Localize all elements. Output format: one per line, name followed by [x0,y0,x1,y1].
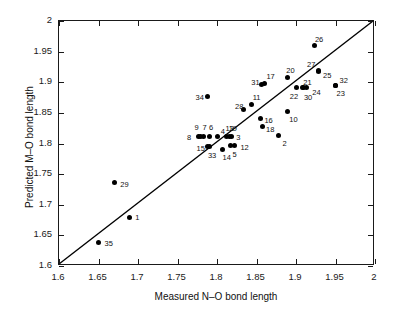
data-point [127,215,132,220]
data-point [215,134,220,139]
data-point-label: 28 [235,103,243,111]
y-tick-mark-right [368,52,373,53]
data-point-label: 16 [264,117,272,125]
data-point-label: 10 [289,116,297,124]
y-tick-mark [59,82,64,83]
x-tick-mark [217,259,218,264]
y-tick-mark [59,144,64,145]
y-tick-label: 1.6 [12,260,52,270]
x-tick-mark [138,259,139,264]
data-point-label: 24 [312,89,320,97]
y-tick-mark [59,21,64,22]
y-tick-mark-right [368,174,373,175]
y-tick-mark-right [368,82,373,83]
plot-canvas [59,21,373,264]
data-point-label: 6 [209,124,213,132]
x-tick-mark [178,259,179,264]
data-point-label: 33 [208,152,216,160]
x-tick-mark [375,259,376,264]
data-point-label: 8 [187,134,191,142]
y-tick-mark [59,235,64,236]
data-point-label: 23 [337,90,345,98]
data-point-label: 34 [196,94,204,102]
x-tick-mark-top [178,21,179,26]
x-tick-label: 1.75 [167,272,186,282]
data-point-label: 25 [323,72,331,80]
x-tick-label: 2 [371,272,376,282]
scatter-plot-figure: 1234567891011121314151617181920212223242… [0,0,394,317]
data-point-label: 29 [120,181,128,189]
x-tick-label: 1.7 [130,272,143,282]
x-axis-title: Measured N–O bond length [58,292,374,302]
data-point-label: 7 [203,124,207,132]
x-tick-label: 1.8 [209,272,222,282]
x-tick-label: 1.95 [325,272,344,282]
data-point-label: 26 [315,36,323,44]
data-point [227,134,232,139]
y-tick-mark-right [368,144,373,145]
plot-area: 1234567891011121314151617181920212223242… [58,20,374,265]
x-tick-mark [336,259,337,264]
y-tick-mark-right [368,235,373,236]
data-point-label: 14 [223,154,231,162]
x-tick-mark [99,259,100,264]
y-tick-mark [59,52,64,53]
y-axis-title: Predicted M–O bond length [25,47,35,247]
y-tick-mark-right [368,205,373,206]
x-tick-mark-top [99,21,100,26]
data-point-label: 17 [266,73,274,81]
y-tick-mark [59,113,64,114]
data-point-label: 3 [236,134,240,142]
x-tick-label: 1.6 [51,272,64,282]
x-tick-mark-top [138,21,139,26]
data-point-label: 27 [307,61,315,69]
y-tick-mark [59,174,64,175]
x-tick-mark-top [375,21,376,26]
x-tick-mark-top [336,21,337,26]
x-tick-mark-top [257,21,258,26]
x-tick-mark [296,259,297,264]
data-point-label: 11 [253,94,261,102]
y-tick-mark [59,205,64,206]
data-point [285,75,290,80]
data-point [316,68,321,73]
y-tick-mark-right [368,266,373,267]
y-tick-mark-right [368,21,373,22]
x-tick-label: 1.85 [246,272,265,282]
data-point [205,94,210,99]
data-point-label: 30 [304,94,312,102]
data-point [285,109,290,114]
x-tick-label: 1.9 [288,272,301,282]
data-point [333,83,338,88]
data-point-label: 31 [251,79,259,87]
y-tick-mark [59,266,64,267]
identity-reference-line [59,21,373,264]
data-point [112,180,117,185]
x-tick-mark-top [217,21,218,26]
data-point-label: 22 [290,93,298,101]
data-point [96,240,101,245]
data-point-label: 32 [340,77,348,85]
data-point-label: 12 [240,144,248,152]
x-tick-label: 1.65 [88,272,107,282]
data-point-label: 18 [266,126,274,134]
data-point-label: 1 [135,214,139,222]
y-tick-mark-right [368,113,373,114]
data-point-label: 2 [283,140,287,148]
data-point-label: 20 [286,67,294,75]
data-point [258,116,263,121]
data-point-label: 9 [194,124,198,132]
data-point-label: 19 [229,125,237,133]
data-point [220,147,225,152]
x-tick-mark-top [296,21,297,26]
x-tick-mark [59,259,60,264]
x-tick-mark [257,259,258,264]
data-point-label: 5 [232,151,236,159]
data-point-label: 35 [105,240,113,248]
y-tick-label: 2 [12,15,52,25]
data-point-label: 15 [197,145,205,153]
data-point [198,134,203,139]
